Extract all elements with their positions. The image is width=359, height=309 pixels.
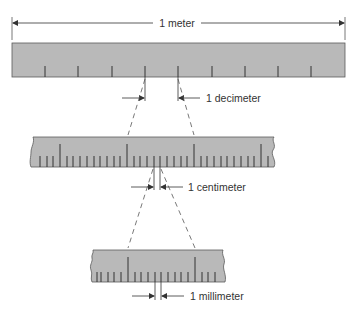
zoom-line-left-2 [128, 169, 153, 248]
decimeter-ruler [30, 137, 275, 167]
centimeter-ruler [90, 250, 225, 282]
zoom-line-right-1 [178, 79, 194, 135]
metric-scale-diagram: 1 meter 1 decimeter [0, 0, 359, 309]
meter-dimension: 1 meter [12, 17, 345, 40]
zoom-line-left-1 [128, 79, 145, 135]
millimeter-callout: 1 millimeter [132, 282, 244, 302]
decimeter-callout: 1 decimeter [122, 77, 261, 135]
meter-ruler [12, 43, 345, 77]
centimeter-ruler-body [90, 250, 225, 282]
centimeter-label: 1 centimeter [188, 181, 246, 193]
millimeter-label: 1 millimeter [190, 290, 244, 302]
decimeter-label: 1 decimeter [206, 92, 261, 104]
centimeter-callout: 1 centimeter [128, 167, 246, 248]
meter-label: 1 meter [159, 17, 195, 29]
